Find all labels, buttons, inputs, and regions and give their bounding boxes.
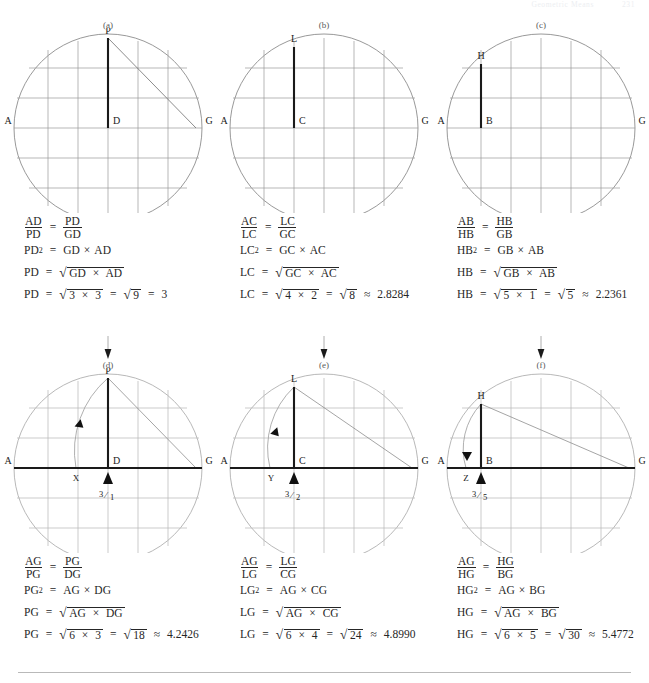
fraction-numerator: LG: [279, 555, 296, 567]
term: LG: [240, 585, 255, 597]
fraction-denominator: LC: [241, 227, 258, 240]
point-label-left-e: A: [220, 455, 228, 466]
equals-sign: =: [262, 607, 269, 619]
fraction-right-d: PG DG: [63, 555, 82, 580]
fraction-denominator: HB: [457, 227, 475, 240]
term: HB: [457, 289, 473, 301]
radical-sign: √: [340, 628, 348, 642]
times-sign: ×: [517, 629, 524, 641]
term: GD: [69, 267, 86, 279]
value: 6: [504, 629, 510, 641]
times-sign: ×: [84, 585, 91, 597]
term: LG: [240, 607, 255, 619]
value: 2: [311, 289, 317, 301]
equals-sign: =: [266, 562, 273, 574]
formula-block-c: AB HB = HB GB HB2 = GB × AB: [457, 215, 649, 306]
value: 4: [312, 629, 318, 641]
radical-expression: √ GC × AC: [275, 266, 339, 280]
equals-sign: =: [262, 267, 269, 279]
equals-sign: =: [481, 629, 488, 641]
radicand: 24: [348, 629, 364, 642]
term: LG: [240, 629, 255, 641]
equation-root-e: LG = √ AG × CG: [240, 602, 440, 624]
fraction-left-e: AG LG: [240, 555, 259, 580]
equals-sign: =: [480, 267, 487, 279]
result-value: 5.4772: [602, 629, 634, 641]
times-sign: ×: [298, 629, 305, 641]
point-label-left-f: A: [437, 455, 445, 466]
radical-expression: √ 24: [340, 628, 363, 642]
fraction-numerator: AB: [457, 215, 475, 227]
radical-expression: √ 3 × 3: [59, 288, 103, 302]
radical-sign: √: [275, 266, 283, 280]
radical-sign: √: [275, 288, 283, 302]
radicand: AG × DG: [67, 607, 125, 620]
equation-numeric-a: PD = √ 3 × 3 = √ 9 =: [24, 284, 224, 306]
radical-sign: √: [59, 628, 67, 642]
value: 3: [69, 289, 75, 301]
term: AG: [286, 607, 303, 619]
point-label-foot-b: C: [299, 115, 306, 126]
times-sign: ×: [299, 245, 306, 257]
equation-proportion-c: AB HB = HB GB: [457, 215, 649, 240]
value: 5: [503, 289, 509, 301]
equals-sign: =: [485, 585, 492, 597]
radicand: 30: [566, 629, 582, 642]
times-sign: ×: [298, 289, 305, 301]
radical-sign: √: [123, 628, 131, 642]
radicand: GB × AB: [501, 267, 557, 280]
equation-square-b: LC2 = GC × AC: [240, 240, 440, 262]
fraction-right-b: LC GC: [278, 215, 296, 240]
figure-column-2: (b): [216, 0, 432, 683]
radical-sign: √: [494, 606, 502, 620]
point-label-arc-end-e: Y: [268, 473, 275, 483]
point-label-foot-d: D: [113, 455, 120, 466]
formula-block-b: AC LC = LC GC LC2 = GC × AC: [240, 215, 440, 306]
radical-expression: √ 6 × 5: [494, 628, 538, 642]
relation-sign: ≈: [364, 289, 370, 301]
equation-numeric-e: LG = √ 6 × 4 = √ 24 ≈: [240, 624, 440, 646]
equals-sign: =: [481, 607, 488, 619]
term: HG: [457, 629, 474, 641]
radical-sign: √: [339, 288, 347, 302]
fraction-left-a: AD PD: [24, 215, 43, 240]
radicand: GD × AD: [67, 267, 124, 280]
equals-sign: =: [482, 222, 489, 234]
diagram-a-svg: P D A G: [0, 28, 216, 213]
hypotenuse-e: [294, 387, 412, 468]
fraction-right-a: PD GD: [63, 215, 82, 240]
radical-expression: √ AG × BG: [494, 606, 559, 620]
radicand: GC × AC: [283, 267, 339, 280]
fraction-numerator: AG: [24, 555, 43, 567]
footer-rule: [18, 672, 631, 673]
point-label-left-d: A: [4, 455, 12, 466]
times-sign: ×: [309, 607, 316, 619]
term: LC: [240, 245, 255, 257]
formula-block-f: AG HG = HG BG HG2 = AG × BG: [457, 555, 649, 646]
term: AC: [310, 245, 326, 257]
marker-fraction-numerator-f: 3: [472, 489, 476, 499]
point-label-apex-a: P: [105, 28, 111, 36]
radical-expression: √ AG × DG: [59, 606, 124, 620]
hypotenuse-d: [108, 378, 196, 468]
point-label-left-c: A: [437, 115, 445, 126]
result-value: 3: [162, 289, 168, 301]
position-marker-d: [103, 472, 113, 484]
point-label-arc-end-f: Z: [463, 473, 469, 483]
term: AD: [94, 245, 111, 257]
point-label-right-a: G: [205, 115, 212, 126]
value: 1: [529, 289, 535, 301]
value: 4: [285, 289, 291, 301]
value: 3: [95, 289, 101, 301]
radical-expression: √ 8: [339, 288, 357, 302]
equals-sign: =: [544, 289, 551, 301]
term: CG: [323, 607, 339, 619]
fraction-denominator: GC: [278, 227, 296, 240]
term: PG: [24, 607, 39, 619]
radical-sign: √: [59, 266, 67, 280]
fraction-denominator: DG: [63, 567, 82, 580]
term: LC: [240, 267, 255, 279]
radical-sign: √: [123, 288, 131, 302]
diagram-f-svg: H B A G Z 3 ⁄ 5: [433, 368, 649, 553]
equation-square-a: PD2 = GD × AD: [24, 240, 224, 262]
